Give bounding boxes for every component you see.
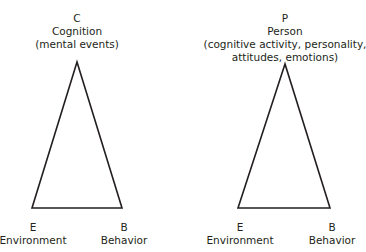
- vertex-letter: E: [0, 221, 67, 234]
- vertex-label-environment-left: E Environment: [0, 221, 67, 247]
- triangle-ceb: [32, 62, 122, 208]
- vertex-name: Environment: [206, 234, 273, 247]
- apex-name: Cognition: [35, 25, 119, 38]
- apex-detail-line1: (cognitive activity, personality,: [204, 38, 366, 51]
- vertex-letter: E: [206, 221, 273, 234]
- vertex-label-environment-right: E Environment: [206, 221, 273, 247]
- apex-letter: P: [204, 12, 366, 25]
- triangle-peb: [238, 64, 330, 208]
- apex-detail: (mental events): [35, 38, 119, 51]
- apex-label-person: P Person (cognitive activity, personalit…: [204, 12, 366, 64]
- vertex-name: Behavior: [101, 234, 148, 247]
- apex-name: Person: [204, 25, 366, 38]
- apex-label-cognition: C Cognition (mental events): [35, 12, 119, 51]
- apex-detail-line2: attitudes, emotions): [204, 51, 366, 64]
- vertex-letter: B: [309, 221, 356, 234]
- vertex-name: Behavior: [309, 234, 356, 247]
- vertex-letter: B: [101, 221, 148, 234]
- vertex-label-behavior-left: B Behavior: [101, 221, 148, 247]
- apex-letter: C: [35, 12, 119, 25]
- vertex-name: Environment: [0, 234, 67, 247]
- vertex-label-behavior-right: B Behavior: [309, 221, 356, 247]
